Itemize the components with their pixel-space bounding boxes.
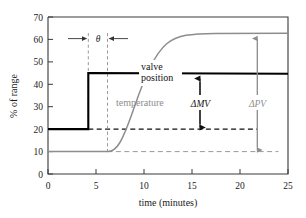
y-axis-title: % of range: [8, 74, 19, 118]
x-tick-label: 20: [235, 181, 245, 191]
y-tick-label: 50: [34, 57, 44, 67]
delta-mv-label: ΔMV: [190, 99, 211, 109]
y-tick-label: 70: [34, 13, 44, 23]
x-tick-label: 15: [187, 181, 197, 191]
valve-position-series-label: valve position: [139, 60, 182, 86]
y-tick-label: 10: [34, 147, 44, 157]
x-axis-title: time (minutes): [139, 197, 198, 209]
chart-figure: 70 60 50 40 30 20 10 0 0 5 10 15 20 25 t…: [0, 0, 306, 218]
x-tick-label: 5: [94, 181, 99, 191]
y-tick-label: 0: [38, 170, 43, 180]
x-tick-label: 10: [139, 181, 149, 191]
x-tick-label: 25: [283, 181, 293, 191]
temperature-series-label: temperature: [116, 97, 164, 108]
y-tick-label: 30: [34, 102, 44, 112]
y-tick-label: 20: [34, 125, 44, 135]
theta-label: θ: [96, 34, 101, 44]
valve-position-label-line2: position: [141, 72, 173, 83]
y-tick-label: 60: [34, 35, 44, 45]
valve-position-label-line1: valve: [141, 61, 163, 72]
x-tick-label: 0: [46, 181, 51, 191]
step-response-chart: 70 60 50 40 30 20 10 0 0 5 10 15 20 25 t…: [0, 0, 306, 218]
delta-pv-label: ΔPV: [248, 99, 267, 109]
y-tick-label: 40: [34, 80, 44, 90]
